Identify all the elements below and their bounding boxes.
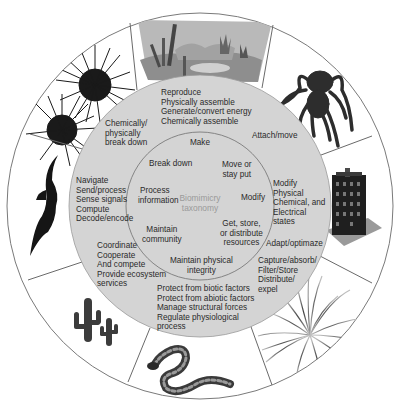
category-information: Process information: [138, 186, 179, 205]
functions-integrity: Protect from biotic factors Protect from…: [157, 284, 254, 332]
functions-move: Attach/move: [252, 131, 298, 141]
category-move: Move or stay put: [222, 160, 252, 179]
biomimicry-taxonomy-diagram: Biomimicry taxonomy Make Move or stay pu…: [0, 0, 397, 409]
functions-break-down: Chemically/ physically break down: [105, 119, 147, 148]
functions-information: Navigate Send/process Sense signals Comp…: [76, 176, 133, 224]
category-resources: Get, store, or distribute resources: [220, 219, 263, 248]
functions-adapt: Adapt/optimaze: [266, 239, 323, 249]
functions-community: Coordinate Cooperate And compete Provide…: [97, 241, 166, 289]
functions-modify: Modify Physical Chemical, and Electrical…: [273, 179, 325, 227]
category-integrity: Maintain physical integrity: [170, 256, 233, 275]
category-modify: Modify: [241, 193, 265, 203]
landscape-icon: [138, 20, 272, 82]
category-make: Make: [190, 138, 210, 148]
functions-resources: Capture/absorb/ Filter/Store Distribute/…: [258, 256, 317, 294]
functions-make: Reproduce Physically assemble Generate/c…: [161, 88, 252, 126]
category-break-down: Break down: [149, 159, 192, 169]
